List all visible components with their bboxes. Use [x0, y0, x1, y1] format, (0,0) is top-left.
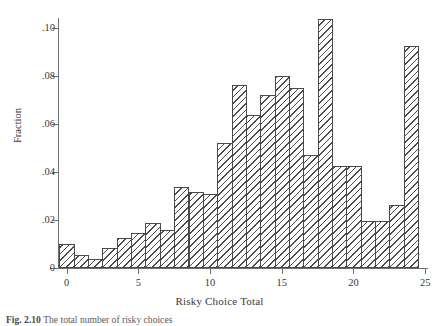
y-tick-label: .06: [42, 117, 55, 130]
histogram-bar: [389, 205, 404, 268]
histogram-bar: [318, 19, 333, 268]
x-tick-mark: [138, 268, 139, 274]
histogram-bar: [217, 143, 232, 268]
figure-caption-text: The total number of risky choices: [43, 314, 172, 325]
histogram-bars: [58, 18, 428, 268]
histogram-bar: [203, 194, 218, 268]
x-tick-label: 15: [276, 276, 287, 289]
figure-caption-label: Fig. 2.10: [6, 314, 41, 325]
histogram-bar: [232, 85, 247, 268]
figure-container: 0.02.04.06.08.10 0510152025 Fraction Ris…: [0, 0, 439, 326]
histogram-bar: [145, 223, 160, 268]
x-tick-label: 10: [205, 276, 216, 289]
histogram-bar: [404, 46, 419, 268]
x-axis-line: [50, 268, 428, 269]
x-tick-mark: [210, 268, 211, 274]
histogram-bar: [246, 115, 261, 268]
histogram-bar: [332, 166, 347, 268]
x-tick-mark: [425, 268, 426, 274]
histogram-bar: [303, 155, 318, 268]
y-tick-label: .10: [42, 21, 55, 34]
y-tick-label: .02: [42, 213, 55, 226]
histogram-bar: [260, 95, 275, 268]
y-axis-title: Fraction: [12, 108, 23, 143]
histogram-bar: [74, 255, 89, 268]
y-tick-label: 0: [50, 261, 55, 274]
y-tick-label: .08: [42, 69, 55, 82]
histogram-bar: [88, 259, 103, 268]
histogram-bar: [102, 248, 117, 268]
x-tick-mark: [282, 268, 283, 274]
y-tick-label: .04: [42, 165, 55, 178]
histogram-bar: [189, 192, 204, 268]
histogram-bar: [346, 166, 361, 268]
histogram-bar: [289, 88, 304, 268]
histogram-bar: [160, 230, 175, 268]
histogram-bar: [174, 187, 189, 268]
x-tick-mark: [353, 268, 354, 274]
x-tick-label: 0: [64, 276, 69, 289]
histogram-bar: [117, 238, 132, 268]
x-tick-label: 25: [420, 276, 431, 289]
histogram-bar: [131, 233, 146, 268]
x-tick-mark: [67, 268, 68, 274]
x-axis-title: Risky Choice Total: [0, 295, 439, 307]
histogram-bar: [59, 244, 74, 268]
x-tick-label: 20: [348, 276, 359, 289]
histogram-bar: [375, 221, 390, 268]
histogram-bar: [361, 221, 376, 268]
figure-caption: Fig. 2.10 The total number of risky choi…: [6, 314, 436, 326]
histogram-bar: [275, 76, 290, 268]
x-tick-label: 5: [136, 276, 141, 289]
